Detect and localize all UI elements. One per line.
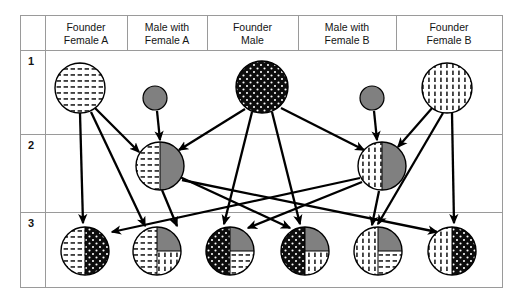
individual-founder-female-a[interactable] — [55, 63, 105, 113]
individual-founder-male[interactable] — [236, 61, 288, 113]
individual-gen2-left[interactable] — [136, 142, 184, 190]
genome-segment-horizontal-dash — [136, 142, 160, 190]
individual-gen3-4[interactable] — [281, 227, 329, 275]
individual-gen3-6[interactable] — [428, 227, 476, 275]
arrow-founder-male-to-gen3-4 — [272, 112, 300, 224]
individual-founder-female-b[interactable] — [422, 63, 472, 113]
arrow-male-with-female-b-to-gen2-right — [374, 111, 377, 140]
arrow-founder-female-b-to-gen3-6 — [452, 113, 454, 223]
arrow-founder-female-a-to-gen2-left — [95, 108, 139, 152]
arrow-founder-male-to-gen2-right — [281, 108, 364, 150]
individual-gen3-1[interactable] — [61, 227, 109, 275]
genome-segment-black-dotted — [206, 227, 230, 275]
genome-segment-horizontal-dash — [133, 227, 157, 275]
genome-segment-vertical-dash — [428, 227, 452, 275]
individual-male-with-female-b[interactable] — [360, 86, 384, 110]
individual-gen3-2[interactable] — [133, 227, 181, 275]
genome-segment-black-dotted — [452, 227, 476, 275]
individual-male-with-female-a[interactable] — [143, 86, 167, 110]
arrow-male-with-female-a-to-gen2-left — [157, 111, 160, 140]
genome-segment-vertical-dash — [354, 227, 378, 275]
individual-gen2-right[interactable] — [358, 142, 406, 190]
individual-gen3-3[interactable] — [206, 227, 254, 275]
arrow-founder-male-to-gen2-left — [179, 109, 245, 150]
individual-gen3-5[interactable] — [354, 227, 402, 275]
pedigree-graphics-layer — [0, 0, 525, 301]
genome-segment-horizontal-dash — [61, 227, 85, 275]
genome-segment-black-dotted — [281, 227, 305, 275]
arrow-founder-female-a-to-gen3-1 — [80, 113, 83, 223]
genome-segment-black-dotted — [85, 227, 109, 275]
pedigree-figure: Founder Female A Male with Female A Foun… — [0, 0, 525, 301]
